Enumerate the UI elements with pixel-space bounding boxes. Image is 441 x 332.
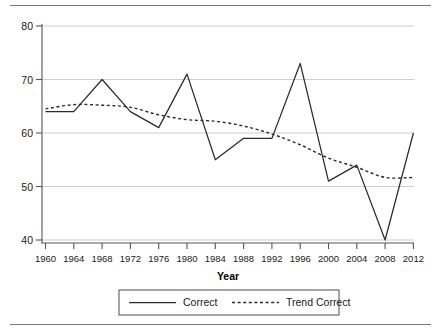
chart-figure: 80 70 60 50 40 — [0, 0, 441, 332]
legend: Correct Trend Correct — [119, 290, 350, 315]
x-tick-label-1980: 1980 — [176, 253, 197, 264]
x-tick-label-2012: 2012 — [403, 253, 424, 264]
x-tick-label-1992: 1992 — [261, 253, 282, 264]
x-tick-label-2008: 2008 — [375, 253, 396, 264]
x-axis-ticks — [46, 243, 414, 249]
y-tick-label-40: 40 — [21, 234, 33, 246]
y-tick-label-70: 70 — [21, 74, 33, 86]
x-tick-label-1988: 1988 — [233, 253, 254, 264]
x-tick-label-1972: 1972 — [120, 253, 141, 264]
x-tick-label-1960: 1960 — [35, 253, 56, 264]
x-tick-label-1996: 1996 — [290, 253, 311, 264]
x-tick-label-2000: 2000 — [318, 253, 339, 264]
x-tick-label-1968: 1968 — [92, 253, 113, 264]
chart-svg: 80 70 60 50 40 — [0, 0, 441, 332]
x-tick-label-1964: 1964 — [63, 253, 84, 264]
x-tick-label-2004: 2004 — [346, 253, 367, 264]
legend-label-trend-correct: Trend Correct — [286, 296, 350, 308]
y-tick-label-60: 60 — [21, 127, 33, 139]
x-axis-title: Year — [217, 270, 239, 282]
legend-label-correct: Correct — [183, 296, 218, 308]
line-chart: 80 70 60 50 40 — [0, 0, 441, 332]
y-axis-ticks — [36, 26, 42, 240]
x-tick-label-1976: 1976 — [148, 253, 169, 264]
y-tick-label-50: 50 — [21, 181, 33, 193]
x-tick-label-1984: 1984 — [205, 253, 226, 264]
y-tick-label-80: 80 — [21, 20, 33, 32]
